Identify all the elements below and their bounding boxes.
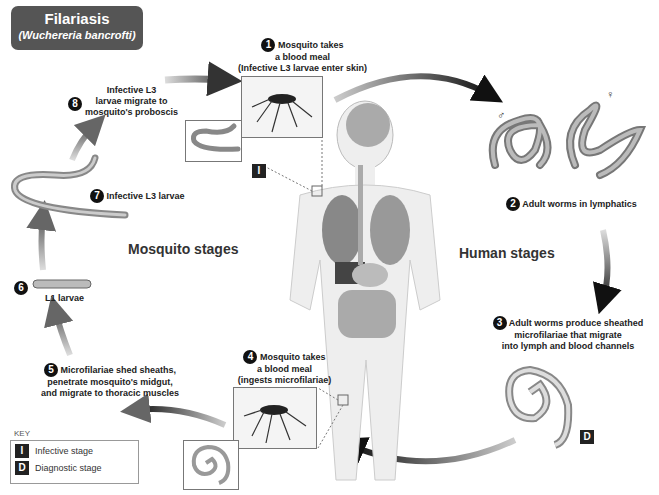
step-line: (ingests microfilariae) — [238, 375, 332, 385]
mosquito-icon — [234, 388, 316, 448]
mosquito-ingest-box — [233, 387, 317, 449]
l3-larvae-skin-box — [185, 120, 242, 162]
key-legend: I Infective stage D Diagnostic stage — [10, 440, 139, 484]
step-number: 3 — [493, 316, 507, 330]
infective-stage-badge: I — [252, 164, 266, 178]
step-line: Infective L3 — [107, 85, 157, 95]
human-stages-label: Human stages — [459, 245, 555, 261]
mosquito-stages-label: Mosquito stages — [128, 241, 238, 257]
key-label: Diagnostic stage — [35, 463, 102, 473]
step-line: Microfilariae shed sheaths, — [60, 365, 176, 375]
step-2-label: 2 Adult worms in lymphatics — [506, 197, 637, 211]
arrow-6-to-7 — [42, 215, 44, 270]
title-box: Filariasis (Wuchereria bancrofti) — [11, 6, 143, 50]
step-line: (Infective L3 larvae enter skin) — [238, 63, 367, 73]
step-number: 5 — [44, 363, 58, 377]
step-8-label: Infective L3 larvae migrate to mosquito'… — [84, 85, 179, 118]
arrow-4-to-5 — [135, 409, 225, 425]
step-number: 2 — [506, 197, 520, 211]
key-item-diagnostic: D Diagnostic stage — [15, 461, 134, 475]
step-8-number: 8 — [68, 93, 82, 111]
lifecycle-illustration — [0, 0, 659, 495]
step-number: 6 — [14, 281, 28, 295]
arrow-1-to-2 — [335, 76, 490, 100]
infective-badge-icon: I — [15, 444, 29, 458]
step-number: 7 — [90, 189, 104, 203]
step-line: a blood meal — [275, 52, 330, 62]
key-item-infective: I Infective stage — [15, 444, 134, 458]
microfilaria-drawing — [509, 370, 568, 445]
step-line: into lymph and blood channels — [502, 341, 635, 351]
mosquito-bite-box — [241, 76, 323, 138]
step-number: 8 — [68, 97, 82, 111]
step-line: Mosquito takes — [278, 40, 344, 50]
arrow-2-to-3 — [603, 230, 608, 300]
step-number: 1 — [261, 38, 275, 52]
step-line: and migrate to thoracic muscles — [41, 388, 179, 398]
step-4-label: 4 Mosquito takes a blood meal (ingests m… — [222, 350, 347, 386]
step-5-label: 5 Microfilariae shed sheaths, penetrate … — [30, 363, 190, 399]
arrow-5-to-6 — [55, 310, 70, 355]
mosquito-icon — [242, 77, 322, 137]
step-line: microfilariae that migrate — [514, 330, 622, 340]
arrow-7-to-8 — [72, 125, 95, 160]
female-symbol: ♀ — [606, 88, 614, 100]
l3-larva-drawing — [15, 158, 126, 215]
arrow-8-to-1 — [165, 79, 225, 80]
step-number: 4 — [243, 350, 257, 364]
l1-larva-drawing — [33, 280, 91, 288]
step-line: Mosquito takes — [260, 352, 326, 362]
larva-icon — [186, 121, 241, 161]
step-line: Infective L3 larvae — [107, 191, 185, 201]
step-7-label: 7 Infective L3 larvae — [90, 189, 185, 203]
diagnostic-badge-icon: D — [15, 461, 29, 475]
adult-worms-drawing — [493, 106, 640, 176]
key-title: KEY — [14, 429, 30, 438]
microfilaria-ingest-box — [183, 440, 239, 490]
step-line: a blood meal — [257, 364, 312, 374]
diagnostic-stage-badge: D — [580, 430, 594, 444]
step-line: Adult worms produce sheathed — [509, 318, 644, 328]
step-6-label: L1 larvae — [45, 293, 84, 304]
step-1-label: 1 Mosquito takes a blood meal (Infective… — [225, 38, 380, 74]
step-3-label: 3 Adult worms produce sheathed microfila… — [478, 316, 658, 352]
step-6-number: 6 — [14, 277, 28, 295]
step-line: penetrate mosquito's midgut, — [47, 377, 173, 387]
title: Filariasis — [11, 10, 143, 27]
subtitle: (Wuchereria bancrofti) — [11, 29, 143, 41]
step-line: larvae migrate to — [95, 96, 167, 106]
microfilaria-icon — [184, 441, 238, 489]
key-label: Infective stage — [35, 446, 93, 456]
male-symbol: ♂ — [497, 109, 505, 121]
step-line: Adult worms in lymphatics — [522, 199, 637, 209]
step-line: mosquito's proboscis — [85, 107, 178, 117]
